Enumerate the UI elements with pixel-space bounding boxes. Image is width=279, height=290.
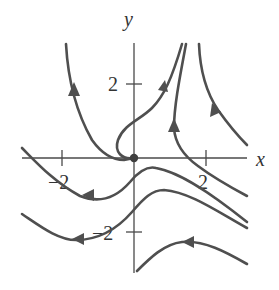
equilibrium-point <box>130 154 138 162</box>
arrow-icon <box>182 236 194 248</box>
y-tick-label-2: 2 <box>108 73 118 95</box>
x-axis-label: x <box>255 148 265 170</box>
arrow-icon <box>68 82 80 96</box>
y-tick-label-neg2: −2 <box>92 222 113 244</box>
trajectory-upper-left <box>66 44 134 160</box>
trajectory-loop <box>117 44 182 158</box>
trajectory-upper-middle <box>174 44 247 196</box>
arrow-icon <box>158 80 168 92</box>
trajectory-upper-right <box>199 44 247 145</box>
y-axis-label: y <box>122 8 133 31</box>
phase-portrait: x y −2 2 2 −2 <box>0 0 279 290</box>
arrow-icon <box>72 233 84 245</box>
arrow-icon <box>168 118 180 132</box>
